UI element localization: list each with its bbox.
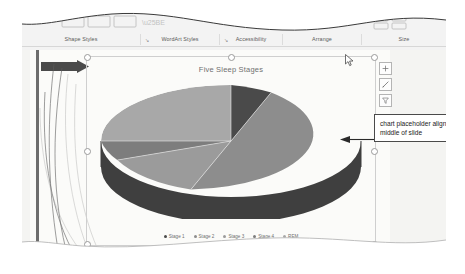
legend-label: Stage 2 (199, 234, 215, 239)
chart-styles-button[interactable] (379, 78, 392, 91)
chart-elements-button[interactable] (379, 62, 392, 75)
svg-text:\u25BE: \u25BE (218, 19, 241, 26)
legend-label: Stage 1 (169, 234, 185, 239)
scanned-photo-background: A \u25BE \u25BE Shape Styles ↘ WordArt S… (0, 0, 465, 274)
ribbon-group-label: Shape Styles (22, 36, 140, 42)
ribbon-group-wordart-styles[interactable]: WordArt Styles ↘ (141, 36, 219, 42)
legend-item[interactable]: Stage 2 (194, 234, 215, 239)
legend-label: REM (288, 234, 298, 239)
legend-swatch-icon (253, 235, 256, 238)
paintbrush-icon (381, 80, 390, 89)
pie-chart-3d[interactable] (87, 79, 375, 219)
legend-swatch-icon (283, 235, 286, 238)
resize-handle-ne[interactable] (371, 54, 378, 61)
legend-label: Stage 4 (258, 234, 274, 239)
slide-canvas[interactable]: Five Sleep Stages (30, 50, 390, 250)
ribbon-group-shape-styles[interactable]: Shape Styles ↘ (22, 36, 140, 42)
chart-filters-button[interactable] (379, 94, 392, 107)
legend-item[interactable]: Stage 3 (223, 234, 244, 239)
annotation-callout: chart placeholder aligned in middle of s… (374, 114, 446, 142)
slide-status-text: Notes (30, 243, 390, 248)
svg-text:\u25BE: \u25BE (142, 19, 165, 26)
ribbon-group-label: Arrange (283, 36, 361, 42)
ribbon-group-arrange[interactable]: Arrange (283, 36, 361, 42)
legend-swatch-icon (223, 235, 226, 238)
ribbon-group-labels: Shape Styles ↘ WordArt Styles ↘ Accessib… (22, 32, 446, 47)
ribbon-group-label: WordArt Styles (141, 36, 219, 42)
ribbon: A \u25BE \u25BE Shape Styles ↘ WordArt S… (22, 10, 446, 50)
chart-title: Five Sleep Stages (87, 65, 375, 74)
legend-item[interactable]: REM (283, 234, 298, 239)
ribbon-group-accessibility[interactable]: Accessibility (220, 36, 282, 42)
vertical-accent-bar-shape (36, 50, 39, 250)
legend-item[interactable]: Stage 1 (164, 234, 185, 239)
plus-icon (381, 64, 390, 73)
callout-pointer-arrow (340, 136, 376, 143)
legend-label: Stage 3 (228, 234, 244, 239)
legend-swatch-icon (164, 235, 167, 238)
ribbon-group-size[interactable]: Size ↘ (362, 36, 446, 42)
chart-legend: Stage 1 Stage 2 Stage 3 Stage 4 (87, 234, 375, 239)
resize-handle-nw[interactable] (84, 54, 91, 61)
resize-handle-w[interactable] (84, 148, 91, 155)
mouse-cursor-icon (345, 54, 354, 67)
right-arrow-shape[interactable] (41, 60, 89, 73)
ribbon-group-label: Accessibility (220, 36, 282, 42)
ribbon-command-icons: A \u25BE \u25BE (22, 12, 446, 32)
chart-placeholder[interactable]: Five Sleep Stages (86, 56, 376, 246)
ribbon-group-label: Size (362, 36, 446, 42)
powerpoint-window: A \u25BE \u25BE Shape Styles ↘ WordArt S… (22, 10, 446, 258)
chart-side-buttons (379, 62, 392, 107)
resize-handle-e[interactable] (371, 148, 378, 155)
funnel-filter-icon (381, 96, 390, 105)
legend-swatch-icon (194, 235, 197, 238)
resize-handle-n[interactable] (228, 54, 235, 61)
legend-item[interactable]: Stage 4 (253, 234, 274, 239)
